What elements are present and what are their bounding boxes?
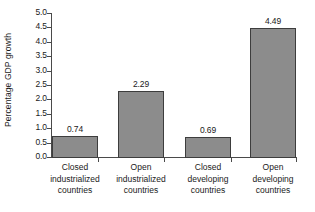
bar-value-label: 0.74 — [52, 124, 98, 134]
plot-area: 0.742.290.694.49 — [51, 13, 297, 158]
y-axis-tick-label: 0.0 — [35, 151, 47, 161]
y-axis-title: Percentage GDP growth — [0, 0, 16, 160]
y-axis-tick-label: 1.0 — [35, 122, 47, 132]
y-axis-tick — [47, 71, 51, 72]
y-axis-tick — [47, 85, 51, 86]
x-axis-label-line: Open — [228, 162, 315, 174]
y-axis-tick — [47, 99, 51, 100]
y-axis-tick-label: 5.0 — [35, 7, 47, 17]
bar-value-label: 4.49 — [250, 16, 296, 26]
y-axis-tick-label: 2.0 — [35, 93, 47, 103]
y-axis-tick-label: 0.5 — [35, 137, 47, 147]
y-axis-title-text: Percentage GDP growth — [3, 33, 13, 127]
y-axis-tick — [47, 114, 51, 115]
y-axis-tick — [47, 143, 51, 144]
y-axis-tick — [47, 42, 51, 43]
bar-value-label: 0.69 — [185, 125, 231, 135]
bar — [185, 137, 231, 158]
y-axis-tick-label: 4.0 — [35, 36, 47, 46]
y-axis-tick — [47, 27, 51, 28]
bar — [118, 91, 164, 158]
y-axis-tick — [47, 56, 51, 57]
y-axis-tick — [47, 128, 51, 129]
y-axis-tick-label: 3.0 — [35, 65, 47, 75]
y-axis-tick-label: 2.5 — [35, 79, 47, 89]
x-axis-label-line: developing — [228, 174, 315, 186]
x-axis-label-line: countries — [228, 185, 315, 197]
bar — [250, 28, 296, 158]
y-axis-tick — [47, 13, 51, 14]
y-axis-tick-label: 4.5 — [35, 21, 47, 31]
y-axis-tick-labels: 0.00.51.01.52.02.53.03.54.04.55.0 — [23, 13, 47, 158]
bar — [52, 136, 98, 158]
bar-chart-figure: Percentage GDP growth 0.00.51.01.52.02.5… — [0, 0, 315, 212]
bar-value-label: 2.29 — [118, 79, 164, 89]
y-axis-tick — [47, 157, 51, 158]
y-axis-tick-label: 3.5 — [35, 50, 47, 60]
y-axis-tick-label: 1.5 — [35, 108, 47, 118]
x-axis-category-label: Opendevelopingcountries — [228, 162, 315, 197]
